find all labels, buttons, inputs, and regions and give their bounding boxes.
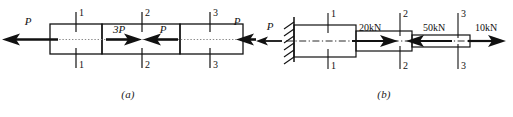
section-label-3-top: 3 xyxy=(213,7,218,18)
force-label-3p: 3P xyxy=(112,23,126,35)
wall-hatch-5 xyxy=(284,50,294,57)
force-arrow-20kn xyxy=(352,35,398,47)
figure-panel-a: 1 2 3 1 2 3 P 3P P xyxy=(0,0,256,117)
force-arrow-3p xyxy=(106,34,142,46)
section-label-1-bottom: 1 xyxy=(79,59,84,70)
section-label-2-bottom: 2 xyxy=(145,59,150,70)
section-label-2-bottom: 2 xyxy=(403,60,408,71)
force-label-left-end: P xyxy=(24,15,32,27)
wall-hatch-6 xyxy=(284,57,294,64)
wall-hatching xyxy=(284,22,294,64)
section-label-2-top: 2 xyxy=(403,8,408,19)
panel-a-caption: (a) xyxy=(0,88,256,100)
section-label-3-bottom: 3 xyxy=(213,59,218,70)
force-label-20kn: 20kN xyxy=(359,22,381,33)
force-arrow-reaction xyxy=(256,37,282,46)
section-label-3-top: 3 xyxy=(461,8,466,19)
force-arrow-50kn xyxy=(406,35,452,47)
force-arrow-10kn xyxy=(468,35,506,47)
force-arrow-right-end xyxy=(236,34,256,46)
force-label-50kn: 50kN xyxy=(423,22,445,33)
fixed-wall-support xyxy=(284,17,294,64)
figure-root: 1 2 3 1 2 3 P 3P P xyxy=(0,0,513,117)
force-label-right-end: P xyxy=(233,15,241,27)
force-label-interior-p: P xyxy=(159,23,167,35)
force-label-reaction: P xyxy=(266,20,274,32)
force-label-10kn: 10kN xyxy=(475,22,497,33)
wall-hatch-4 xyxy=(284,43,294,50)
wall-hatch-2 xyxy=(284,29,294,36)
bar-segment-3 xyxy=(180,24,243,54)
section-ticks-top xyxy=(76,12,210,32)
wall-hatch-3 xyxy=(284,36,294,43)
force-arrow-interior-p xyxy=(143,34,178,46)
panel-b-caption: (b) xyxy=(256,88,512,100)
figure-panel-b: 1 2 3 1 2 3 P 20kN 50kN xyxy=(256,0,512,117)
wall-hatch-1 xyxy=(284,22,294,29)
section-label-1-top: 1 xyxy=(331,8,336,19)
section-label-3-bottom: 3 xyxy=(461,60,466,71)
section-label-1-top: 1 xyxy=(79,7,84,18)
section-ticks-bottom xyxy=(76,48,210,68)
section-label-2-top: 2 xyxy=(145,7,150,18)
section-label-1-bottom: 1 xyxy=(331,60,336,71)
